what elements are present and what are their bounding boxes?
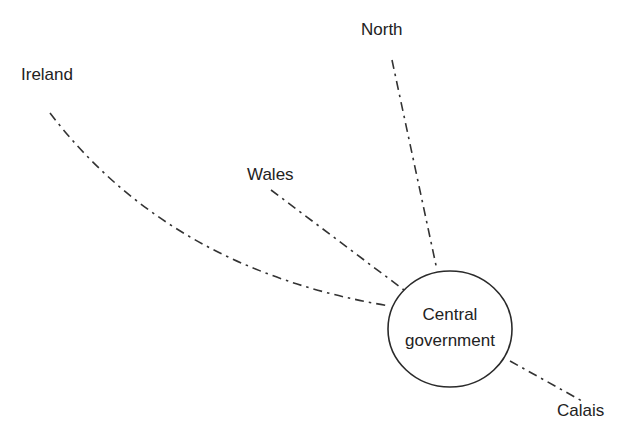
central-node-label-line1: Central <box>388 302 512 328</box>
node-label-north: North <box>361 20 403 40</box>
node-label-ireland: Ireland <box>21 65 73 85</box>
node-label-calais: Calais <box>557 401 604 421</box>
central-node-label: Central government <box>388 302 512 354</box>
central-node-label-line2: government <box>388 328 512 354</box>
diagram-canvas <box>0 0 643 443</box>
connector-calais <box>510 361 582 401</box>
node-label-wales: Wales <box>247 165 294 185</box>
connector-north <box>392 60 437 270</box>
connector-ireland <box>50 113 390 306</box>
connector-wales <box>271 190 404 290</box>
